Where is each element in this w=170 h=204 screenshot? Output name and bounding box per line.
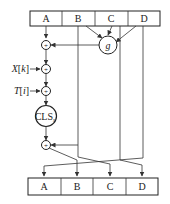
bottom-register-row: A B C D [28,178,158,195]
adder-4: + [42,141,51,151]
constant-label: T[i] [14,85,29,96]
md5-round-diagram: A B C D [0,0,170,204]
adder-3: + [42,87,51,97]
message-word-label: X[k] [11,63,29,74]
plus-icon: + [44,88,48,96]
circular-left-shift-node: CLSs [35,106,57,127]
function-g-label: g [106,40,111,51]
plus-icon: + [44,142,48,150]
bottom-register-c: C [107,181,114,192]
top-register-d: D [140,13,147,24]
plus-icon: + [44,66,48,74]
top-register-row: A B C D [30,11,160,26]
bottom-register-a: A [40,181,48,192]
top-register-a: A [42,13,50,24]
top-register-b: B [75,13,82,24]
cls-label: CLSs [35,111,56,123]
plus-icon: + [44,42,48,50]
top-register-c: C [108,13,115,24]
adder-1: + [42,41,51,51]
bottom-register-b: B [74,181,81,192]
adder-2: + [42,65,51,75]
bottom-register-d: D [138,181,145,192]
function-g-node: g [99,36,117,54]
